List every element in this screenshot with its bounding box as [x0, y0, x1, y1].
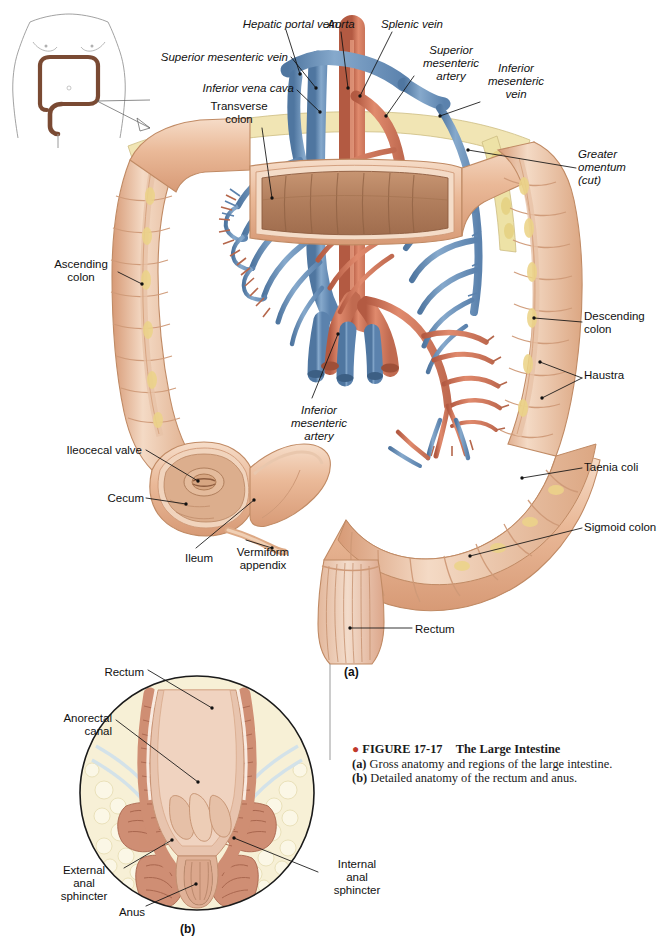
panel-a-marker: (a) [344, 665, 359, 679]
label-rectum: Rectum [415, 623, 467, 636]
figure-title: The Large Intestine [446, 742, 561, 756]
figure-number: FIGURE 17-17 [362, 742, 442, 756]
caption-b-label: (b) [352, 771, 367, 785]
rectum-shape-a [318, 560, 384, 664]
label-greater-omentum-cut: Greater omentum (cut) [578, 148, 652, 187]
label-superior-mesenteric-vein: Superior mesenteric vein [146, 51, 288, 64]
label-anus: Anus [112, 906, 152, 919]
label-anorectal-canal: Anorectal canal [38, 712, 112, 738]
label-ascending-colon: Ascending colon [48, 258, 114, 284]
caption-a-text: Gross anatomy and regions of the large i… [370, 757, 613, 771]
caption-title-line: ● FIGURE 17-17 The Large Intestine [352, 742, 652, 757]
label-ileum: Ileum [178, 552, 220, 565]
label-inferior-mesenteric-vein: Inferior mesenteric vein [482, 62, 550, 101]
panel-b-marker: (b) [180, 922, 195, 936]
label-superior-mesenteric-artery: Superior mesenteric artery [418, 44, 484, 83]
caption-b-text: Detailed anatomy of the rectum and anus. [370, 771, 577, 785]
ascending-colon-shape [111, 160, 200, 470]
label-cecum: Cecum [100, 492, 144, 505]
anal-columns [170, 794, 232, 842]
label-sigmoid-colon: Sigmoid colon [584, 521, 662, 534]
label-descending-colon: Descending colon [584, 310, 656, 336]
label-ileocecal-valve: Ileocecal valve [50, 444, 142, 457]
label-transverse-colon: Transverse colon [200, 100, 278, 126]
splenic-vein-vessel [404, 84, 444, 104]
anatomy-illustration [0, 0, 662, 946]
ileocecal-valve-shape [184, 468, 224, 496]
caption-line-b: (b) Detailed anatomy of the rectum and a… [352, 771, 652, 786]
ileum-shape [250, 444, 330, 527]
transverse-colon-mucosa [262, 171, 448, 235]
body-torso-colon-locator [13, 14, 150, 148]
label-taenia-coli: Taenia coli [584, 461, 652, 474]
caption-bullet-icon: ● [352, 742, 359, 756]
caption-line-a: (a) Gross anatomy and regions of the lar… [352, 757, 652, 772]
label-internal-anal-sphincter: Internal anal sphincter [322, 858, 392, 897]
label-splenic-vein: Splenic vein [381, 18, 463, 31]
figure-caption: ● FIGURE 17-17 The Large Intestine (a) G… [352, 742, 652, 786]
label-external-anal-sphincter: External anal sphincter [48, 864, 120, 903]
figure-canvas: Hepatic portal veinAortaSplenic veinSupe… [0, 0, 662, 946]
label-vermiform-appendix: Vermiform appendix [228, 546, 298, 572]
label-haustra: Haustra [584, 369, 638, 382]
label-inferior-mesenteric-artery: Inferior mesenteric artery [284, 404, 354, 443]
cecum-shape [150, 442, 256, 536]
label-aorta: Aorta [318, 18, 364, 31]
label-rectum-inset: Rectum [86, 666, 144, 679]
large-intestine-body [111, 28, 600, 760]
caption-a-label: (a) [352, 757, 366, 771]
label-inferior-vena-cava: Inferior vena cava [184, 82, 294, 95]
